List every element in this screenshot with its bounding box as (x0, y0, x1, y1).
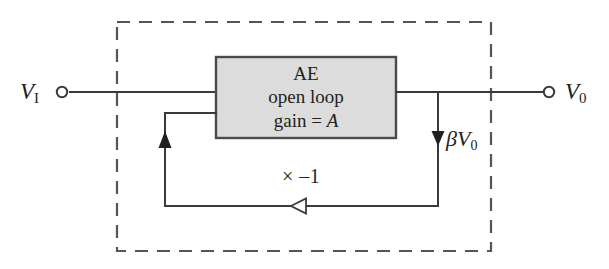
output-terminal-circle-icon (544, 87, 554, 97)
input-terminal-subscript: I (34, 90, 39, 106)
arrow-up-filled-icon (159, 131, 172, 148)
feedback-tap-symbol: βV (446, 126, 470, 151)
feedback-amplifier-diagram: AE open loop gain = A VI V0 βV0 × –1 (0, 0, 609, 269)
input-terminal-label: VI (20, 80, 39, 106)
feedback-path-label: × –1 (282, 166, 320, 186)
arrow-left-hollow-icon (291, 199, 306, 214)
feedback-tap-subscript: 0 (470, 138, 477, 153)
output-terminal-symbol: V (565, 79, 579, 104)
diagram-canvas (0, 0, 609, 269)
amplifier-block-rect (216, 57, 396, 138)
output-terminal-subscript: 0 (579, 90, 587, 106)
feedback-tap-label: βV0 (446, 128, 477, 153)
arrow-down-filled-icon (432, 131, 445, 146)
input-terminal-symbol: V (20, 79, 34, 104)
input-terminal-circle-icon (57, 87, 67, 97)
output-terminal-label: V0 (565, 80, 587, 106)
